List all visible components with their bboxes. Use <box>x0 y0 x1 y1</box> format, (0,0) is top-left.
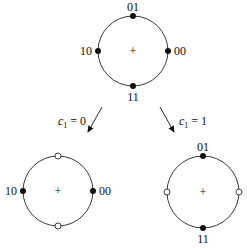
branch-arrows: c1 = 0 c1 = 1 <box>58 107 207 132</box>
center-mark: + <box>200 185 207 199</box>
point-10 <box>20 188 26 194</box>
label-00: 00 <box>99 184 111 198</box>
point-00 <box>90 188 96 194</box>
empty-point-right <box>236 189 242 195</box>
arrow-label-right: c1 = 1 <box>179 114 207 130</box>
bottom-right-constellation: + 01 11 <box>164 140 242 246</box>
point-11 <box>200 225 206 231</box>
constellation-diagram: + 01 00 11 10 c1 = 0 c1 = 1 + 00 10 + 01… <box>0 0 247 248</box>
label-11: 11 <box>127 90 139 104</box>
center-mark: + <box>130 44 137 58</box>
bottom-left-constellation: + 00 10 <box>5 153 111 229</box>
label-11: 11 <box>197 232 209 246</box>
point-11 <box>130 83 136 89</box>
empty-point-bottom <box>55 223 61 229</box>
point-10 <box>95 48 101 54</box>
label-10: 10 <box>80 44 92 58</box>
arrow-right <box>160 107 174 132</box>
empty-point-left <box>164 189 170 195</box>
label-01: 01 <box>197 140 209 154</box>
empty-point-top <box>55 153 61 159</box>
arrow-label-left: c1 = 0 <box>58 114 86 130</box>
label-10: 10 <box>5 184 17 198</box>
arrow-left <box>88 107 102 132</box>
label-00: 00 <box>174 44 186 58</box>
point-00 <box>165 48 171 54</box>
center-mark: + <box>55 184 62 198</box>
label-01: 01 <box>127 0 139 14</box>
top-constellation: + 01 00 11 10 <box>80 0 186 104</box>
